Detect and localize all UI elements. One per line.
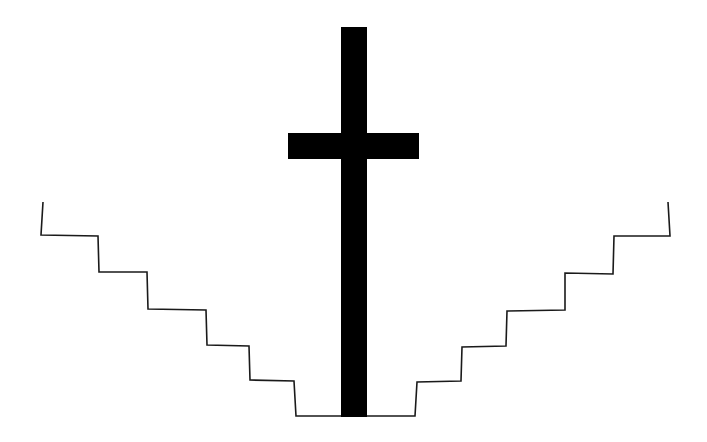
cross-vertical-bar	[341, 27, 367, 417]
cross-horizontal-bar	[288, 133, 419, 159]
cross-and-stairs-diagram	[0, 0, 707, 442]
